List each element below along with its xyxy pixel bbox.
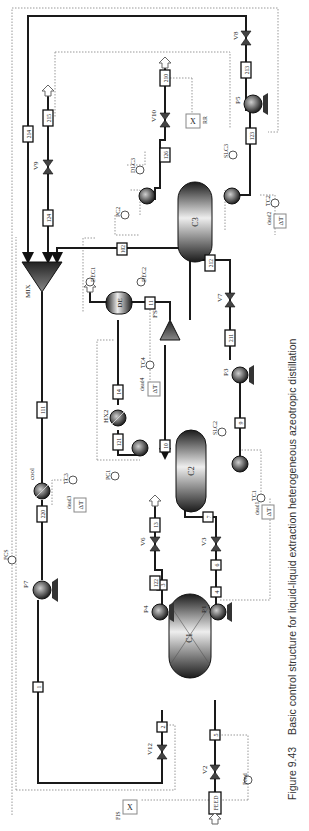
svg-text:14: 14 (116, 389, 122, 395)
figure-caption: Figure 9.43Basic control structure for l… (286, 339, 298, 800)
svg-text:V6: V6 (139, 537, 147, 546)
svg-text:dead2: dead2 (266, 212, 272, 225)
controller-fcs: FCS (3, 549, 16, 564)
svg-text:7: 7 (206, 516, 212, 519)
stream-13: 13 (150, 518, 160, 532)
svg-text:C2: C2 (187, 466, 196, 475)
svg-text:13: 13 (153, 522, 159, 528)
reboiler-c2 (232, 456, 248, 472)
product-c2-outlet-arrow (149, 495, 161, 506)
controller-dec2: DEC2 (137, 267, 147, 286)
svg-text:ΔT: ΔT (151, 384, 159, 394)
svg-text:TC3: TC3 (63, 473, 69, 484)
stream-214: 214 (23, 126, 33, 142)
valve-v8: V8 (232, 31, 251, 45)
stream-2: 2 (157, 722, 167, 732)
svg-text:4: 4 (214, 591, 220, 594)
svg-text:TC2: TC2 (265, 195, 271, 206)
stream-7: 7 (203, 512, 213, 522)
stream-212: 212 (205, 255, 215, 271)
process-pipes (28, 16, 250, 810)
svg-text:DEC1: DEC1 (90, 267, 96, 282)
figure-caption-text: Basic control structure for liquid-liqui… (286, 339, 298, 735)
svg-text:cool: cool (28, 468, 36, 480)
svg-text:SLC2: SLC2 (212, 421, 218, 435)
column-c3: C3 (178, 182, 212, 262)
svg-text:P7: P7 (22, 580, 30, 588)
svg-text:215: 215 (46, 114, 52, 123)
pump-p7: P7 (22, 578, 58, 602)
svg-text:V2: V2 (201, 765, 209, 774)
stream-14: 14 (113, 385, 123, 399)
stream-122: 122 (150, 576, 160, 590)
svg-text:ΔT: ΔT (277, 216, 285, 226)
svg-text:P3: P3 (222, 368, 230, 376)
controller-tc3: TC3 (63, 473, 77, 484)
stream-215: 215 (43, 110, 53, 126)
exchanger-hx2: HX2 (102, 409, 126, 426)
product-c3-outlet-arrow (159, 57, 171, 68)
stream-123: 123 (246, 128, 256, 144)
svg-text:DEC2: DEC2 (141, 267, 147, 282)
valve-v7: V7 (216, 293, 235, 307)
controller-slc3: SLC3 (223, 144, 237, 159)
exchanger-cool: cool (28, 468, 50, 499)
stream-tags: FEED 5 2 1 3 4 122 6 13 7 220 111 121 10… (23, 62, 256, 814)
svg-text:SLC3: SLC3 (223, 144, 229, 158)
stream-126: 126 (160, 148, 170, 162)
multiplier-fis: XFIS (115, 800, 137, 820)
pump-p4: P4 (142, 602, 174, 622)
valve-v3: V3 (200, 537, 221, 551)
svg-text:X: X (127, 803, 133, 812)
svg-text:126: 126 (163, 151, 169, 160)
svg-text:2: 2 (160, 726, 166, 729)
svg-text:FIS: FIS (115, 811, 121, 820)
svg-text:dead1: dead1 (254, 502, 260, 515)
svg-text:102: 102 (120, 245, 126, 254)
svg-text:122: 122 (153, 579, 159, 588)
makeup-inlet-arrow (42, 85, 54, 96)
svg-text:P5: P5 (234, 96, 242, 104)
condenser-c3 (139, 188, 155, 204)
stream-5: 5 (210, 730, 220, 740)
svg-text:V12: V12 (146, 742, 154, 755)
stream-6: 6 (211, 560, 221, 570)
decanter-de: DE (106, 292, 132, 314)
controller-feed: Feed (242, 773, 252, 785)
svg-text:TC4: TC4 (140, 357, 146, 368)
controller-dlc3: DLC3 (130, 158, 144, 174)
svg-text:dead4: dead4 (139, 378, 145, 391)
svg-text:P4: P4 (142, 605, 150, 613)
svg-text:210: 210 (163, 74, 169, 83)
svg-text:11: 11 (148, 300, 154, 306)
stream-4: 4 (211, 587, 221, 597)
svg-text:V7: V7 (216, 293, 224, 302)
controller-slc2: SLC2 (212, 421, 226, 436)
svg-text:X: X (190, 117, 196, 126)
stream-124: 124 (43, 210, 53, 226)
controller-tc1: TC1 (251, 490, 265, 502)
mixer-mix: MIX (22, 262, 62, 298)
controller-tc2: TC2 (265, 195, 279, 207)
svg-text:HX2: HX2 (102, 409, 110, 423)
stream-10: 10 (160, 440, 170, 452)
svg-text:C1: C1 (185, 633, 194, 642)
svg-text:TC1: TC1 (251, 490, 257, 501)
svg-text:FCS: FCS (3, 549, 9, 560)
svg-text:ΔT: ΔT (77, 500, 85, 510)
svg-text:C3: C3 (191, 217, 200, 226)
svg-text:6: 6 (214, 564, 220, 567)
svg-text:121: 121 (116, 438, 122, 447)
stream-102: 102 (117, 243, 127, 255)
deadtime-dead4: ΔTdead4 (139, 378, 160, 396)
pump-p3: P3 (222, 365, 254, 385)
deadtime-dead3: ΔTdead3 (66, 496, 86, 512)
svg-text:124: 124 (46, 214, 52, 223)
svg-text:PC2: PC2 (115, 207, 121, 217)
svg-text:213: 213 (244, 66, 250, 75)
svg-text:V9: V9 (32, 161, 40, 170)
svg-text:P1: P1 (200, 605, 208, 613)
valve-v6: V6 (139, 537, 160, 551)
svg-text:214: 214 (26, 130, 32, 139)
controller-dec1: DEC1 (86, 267, 96, 286)
